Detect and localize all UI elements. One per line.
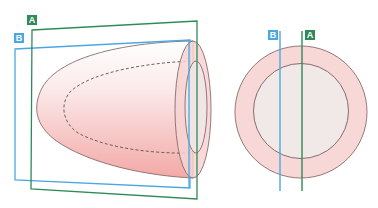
cone-body bbox=[37, 41, 193, 178]
left-3d-view bbox=[15, 21, 211, 199]
plane-b-label-right: B bbox=[268, 30, 278, 40]
sectioning-diagram bbox=[0, 0, 378, 208]
right-section-view bbox=[235, 31, 367, 191]
plane-b-label-left: B bbox=[14, 33, 24, 43]
plane-a-label-right: A bbox=[305, 30, 315, 40]
cross-section-inner-circle bbox=[254, 64, 349, 159]
plane-a-label-left: A bbox=[27, 15, 37, 25]
end-cap-inner bbox=[185, 61, 207, 153]
